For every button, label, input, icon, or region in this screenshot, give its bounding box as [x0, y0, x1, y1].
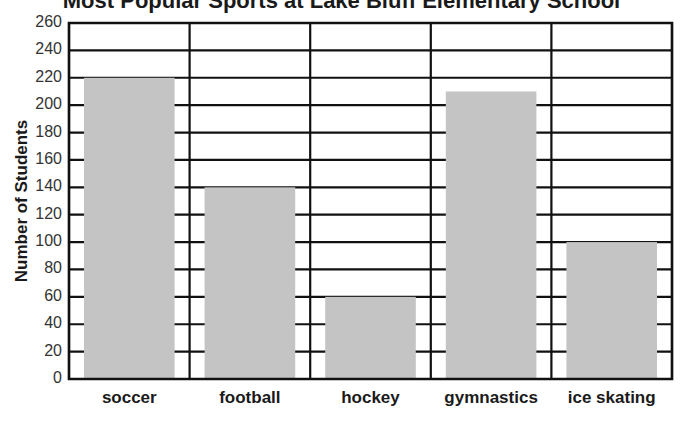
y-tick-label: 140	[0, 177, 62, 195]
y-tick-label: 20	[0, 342, 62, 360]
y-tick-label: 160	[0, 150, 62, 168]
y-tick-label: 260	[0, 13, 62, 31]
y-tick-label: 40	[0, 314, 62, 332]
y-tick-label: 240	[0, 40, 62, 58]
chart-svg	[0, 0, 683, 425]
x-category-label: football	[190, 388, 311, 408]
x-category-label: hockey	[310, 388, 431, 408]
y-tick-label: 180	[0, 123, 62, 141]
bar-soccer	[84, 78, 175, 379]
y-tick-label: 220	[0, 68, 62, 86]
y-tick-label: 200	[0, 95, 62, 113]
y-tick-label: 0	[0, 369, 62, 387]
y-tick-label: 60	[0, 287, 62, 305]
x-category-label: gymnastics	[431, 388, 552, 408]
bar-ice-skating	[566, 242, 657, 379]
y-tick-label: 80	[0, 259, 62, 277]
y-tick-label: 120	[0, 205, 62, 223]
x-category-label: soccer	[69, 388, 190, 408]
bar-gymnastics	[446, 91, 537, 379]
y-tick-label: 100	[0, 232, 62, 250]
bar-hockey	[325, 297, 416, 379]
bar-football	[205, 187, 296, 379]
x-category-label: ice skating	[551, 388, 672, 408]
plot-area: 020406080100120140160180200220240260socc…	[0, 0, 683, 425]
